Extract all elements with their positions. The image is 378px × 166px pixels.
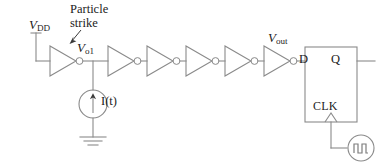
inverter-5-triangle (225, 46, 251, 76)
inverter-5-bubble (251, 58, 258, 65)
inverter-6-triangle (264, 46, 290, 76)
square-wave-icon (354, 144, 368, 153)
inverter-1-triangle (50, 46, 76, 76)
inverter-3-triangle (147, 46, 173, 76)
inverter-2-bubble (134, 58, 141, 65)
inverter-5[interactable] (225, 46, 264, 76)
clock-source[interactable] (348, 135, 374, 161)
clock-source-circle (348, 135, 374, 161)
ground-symbol (80, 137, 106, 145)
label-particle-strike: Particlestrike (70, 2, 108, 30)
inverter-4-triangle (186, 46, 212, 76)
inverter-2-triangle (108, 46, 134, 76)
vdd-supply-branch (31, 33, 50, 61)
inverter-1-bubble (76, 58, 83, 65)
inverter-4-bubble (212, 58, 219, 65)
inverter-2[interactable] (108, 46, 147, 76)
inverter-6-bubble (290, 58, 297, 65)
clock-net (331, 122, 347, 148)
label-flipflop-q-pin: Q (331, 52, 340, 66)
clock-edge-triangle-icon (325, 113, 337, 122)
label-node-vo1: Vo1 (77, 41, 94, 56)
inverter-3[interactable] (147, 46, 186, 76)
label-vdd: VDD (29, 18, 50, 33)
label-current-source: I(t) (101, 94, 117, 108)
inverter-3-bubble (173, 58, 180, 65)
label-node-vout: Vout (268, 31, 288, 46)
schematic-canvas (0, 0, 378, 166)
label-flipflop-clk-pin: CLK (313, 100, 338, 113)
circuit-diagram: VDD Particlestrike Vo1 I(t) Vout D Q CLK (0, 0, 378, 166)
label-flipflop-d-pin: D (299, 52, 308, 66)
inverter-4[interactable] (186, 46, 225, 76)
